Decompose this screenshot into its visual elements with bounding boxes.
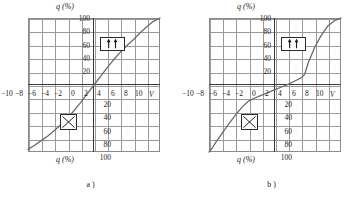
figure-b-ytick-neg20: 20 bbox=[276, 101, 292, 109]
figure-a-xtick-10: 10 bbox=[135, 90, 143, 98]
figure-a-plot bbox=[28, 18, 160, 152]
figure-b-ytick-neg40: 40 bbox=[276, 114, 292, 122]
figure-b-plot bbox=[209, 18, 341, 152]
figure-a-xtick-neg4: −4 bbox=[41, 90, 49, 98]
antiparallel-arrows-icon bbox=[281, 37, 306, 51]
figure-a-xtick-neg10: −10 bbox=[1, 90, 13, 98]
figure-b-x-unit: V bbox=[330, 90, 335, 99]
figure-a: q (%) bbox=[0, 0, 181, 203]
figure-b-xtick-2: 2 bbox=[265, 90, 269, 98]
figure-b-xtick-neg6: −6 bbox=[209, 90, 217, 98]
figure-a-xtick-neg2: −2 bbox=[54, 90, 62, 98]
figure-b-xtick-neg8: −8 bbox=[196, 90, 204, 98]
figure-a-xtick-neg8: −8 bbox=[15, 90, 23, 98]
figure-b-xtick-neg10: −10 bbox=[182, 90, 194, 98]
figure-a-xtick-8: 8 bbox=[124, 90, 128, 98]
figure-a-curve bbox=[28, 18, 160, 152]
figure-a-ytick-neg100: 100 bbox=[93, 154, 111, 162]
figure-b-xtick-neg2: −2 bbox=[235, 90, 243, 98]
figure-a-xtick-4: 4 bbox=[97, 90, 101, 98]
figure-b-caption: b ) bbox=[181, 180, 362, 189]
figure-a-ytick-60: 60 bbox=[74, 42, 90, 50]
crossed-box-icon bbox=[60, 114, 77, 130]
figure-b-top-axis-label: q (%) bbox=[237, 3, 255, 11]
figure-a-xtick-6: 6 bbox=[111, 90, 115, 98]
figure-b-curve bbox=[209, 18, 341, 152]
figure-sheet: q (%) bbox=[0, 0, 363, 203]
figure-b-ytick-40: 40 bbox=[255, 55, 271, 63]
figure-b-bottom-axis-label: q (%) bbox=[237, 156, 255, 164]
figure-a-caption: a ) bbox=[0, 180, 181, 189]
figure-b-ytick-20: 20 bbox=[255, 68, 271, 76]
figure-a-ytick-20: 20 bbox=[74, 68, 90, 76]
figure-b-ytick-neg100: 100 bbox=[274, 154, 292, 162]
figure-b-xtick-0: 0 bbox=[252, 90, 256, 98]
figure-a-ytick-neg80: 80 bbox=[95, 141, 111, 149]
figure-b-xtick-4: 4 bbox=[278, 90, 282, 98]
figure-b-ytick-80: 80 bbox=[255, 28, 271, 36]
figure-a-xtick-neg6: −6 bbox=[28, 90, 36, 98]
parallel-up-arrows-icon bbox=[100, 37, 125, 51]
figure-b: q (%) 1 bbox=[181, 0, 362, 203]
figure-a-ytick-neg60: 60 bbox=[95, 128, 111, 136]
figure-b-xtick-8: 8 bbox=[305, 90, 309, 98]
figure-b-xtick-6: 6 bbox=[292, 90, 296, 98]
figure-b-ytick-100: 100 bbox=[255, 15, 271, 23]
figure-b-ytick-60: 60 bbox=[255, 42, 271, 50]
figure-a-top-axis-label: q (%) bbox=[56, 3, 74, 11]
figure-b-ytick-neg80: 80 bbox=[276, 141, 292, 149]
figure-a-x-unit: V bbox=[149, 90, 154, 99]
figure-a-ytick-100: 100 bbox=[74, 15, 90, 23]
figure-a-ytick-neg20: 20 bbox=[95, 101, 111, 109]
figure-a-ytick-neg40: 40 bbox=[95, 114, 111, 122]
figure-b-xtick-10: 10 bbox=[316, 90, 324, 98]
figure-b-xtick-neg4: −4 bbox=[222, 90, 230, 98]
figure-a-xtick-2: 2 bbox=[84, 90, 88, 98]
figure-a-xtick-0: 0 bbox=[71, 90, 75, 98]
figure-b-ytick-neg60: 60 bbox=[276, 128, 292, 136]
crossed-box-icon bbox=[241, 114, 258, 130]
figure-a-ytick-40: 40 bbox=[74, 55, 90, 63]
figure-a-bottom-axis-label: q (%) bbox=[56, 156, 74, 164]
figure-a-ytick-80: 80 bbox=[74, 28, 90, 36]
